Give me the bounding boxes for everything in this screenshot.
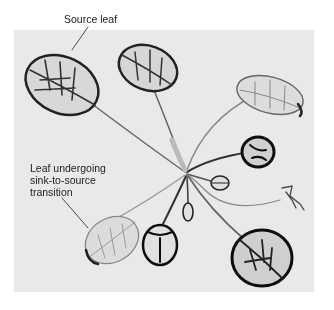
source-leaf-label: Source leaf — [64, 13, 117, 25]
transition-leaf-label-line1: Leaf undergoing — [30, 162, 106, 174]
figure: Source leaf Leaf undergoing sink-to-sour… — [0, 0, 334, 310]
transition-leaf-label-line2: sink-to-source — [30, 174, 106, 186]
transition-leaf-label: Leaf undergoing sink-to-source transitio… — [30, 162, 106, 198]
plant-rosette-illustration — [0, 0, 334, 310]
transition-leaf-label-line3: transition — [30, 186, 106, 198]
